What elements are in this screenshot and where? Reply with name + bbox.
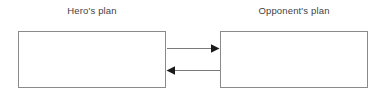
arrow-hero-to-opponent: [167, 44, 220, 53]
arrow-opponent-to-hero-head: [167, 66, 176, 75]
opponent-plan-box: [220, 31, 368, 88]
hero-plan-box: [18, 31, 166, 88]
opponent-plan-label: Opponent's plan: [220, 5, 368, 17]
diagram-canvas: Hero's plan Opponent's plan: [0, 0, 386, 97]
arrow-opponent-to-hero: [167, 66, 220, 75]
arrow-hero-to-opponent-head: [211, 44, 220, 53]
hero-plan-label: Hero's plan: [18, 5, 166, 17]
